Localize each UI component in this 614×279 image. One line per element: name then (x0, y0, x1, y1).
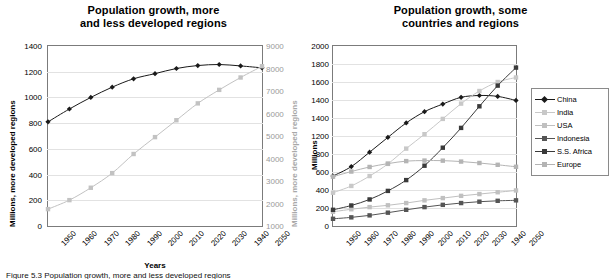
data-point (440, 101, 445, 106)
data-point (441, 146, 445, 150)
x-axis-tick-label: 2010 (454, 229, 473, 248)
x-axis-tick-label: 1990 (145, 229, 164, 248)
data-point (88, 95, 93, 100)
series-line (333, 161, 516, 177)
legend-label: Indonesia (555, 134, 590, 143)
x-axis-tick-label: 2010 (188, 229, 207, 248)
data-point (131, 152, 135, 156)
y-axis-tick-label: 1800 (311, 60, 329, 69)
y-axis-secondary-tick-label: 5000 (266, 132, 284, 141)
y-axis-right-ticks: 2000180016001400140012008006004002000 (303, 45, 329, 227)
data-point (386, 203, 390, 207)
series-layer-right (332, 45, 517, 227)
series-layer-left (47, 45, 263, 227)
y-axis-tick-label: 800 (29, 119, 42, 128)
data-point (386, 161, 390, 165)
legend-item[interactable]: Indonesia (535, 132, 605, 145)
data-point (367, 197, 371, 201)
data-point (422, 158, 426, 162)
x-axis-tick-label: 2030 (230, 229, 249, 248)
y-axis-secondary-tick-label: 7000 (266, 87, 284, 96)
data-point (152, 71, 157, 76)
data-point (386, 189, 390, 193)
y-axis-tick-label: 400 (29, 170, 42, 179)
data-point (496, 83, 500, 87)
data-point (45, 119, 50, 124)
x-axis-tick-label: 1970 (381, 229, 400, 248)
data-point (496, 163, 500, 167)
y-axis-tick-label: 1200 (24, 67, 42, 76)
data-point (404, 159, 408, 163)
data-point (422, 132, 426, 136)
legend-item[interactable]: India (535, 106, 605, 119)
data-point (514, 188, 518, 192)
chart-panel-left: Population growth, more and less develop… (0, 0, 307, 279)
data-point (459, 126, 463, 130)
data-point (404, 201, 408, 205)
data-point (404, 146, 408, 150)
chart-title-right: Population growth, some countries and re… (307, 4, 614, 30)
y-axis-tick-label: 1400 (311, 114, 329, 123)
data-point (238, 75, 242, 79)
data-point (422, 164, 426, 168)
data-point (459, 95, 464, 100)
data-point (349, 215, 353, 219)
data-point (110, 85, 115, 90)
data-point (459, 194, 463, 198)
legend-marker-icon (535, 94, 555, 105)
data-point (422, 198, 426, 202)
data-point (46, 207, 50, 211)
data-point (367, 174, 371, 178)
data-point (331, 217, 335, 221)
data-point (67, 198, 71, 202)
x-axis-tick-label: 1980 (123, 229, 142, 248)
data-point (367, 165, 371, 169)
data-point (477, 93, 482, 98)
legend-item[interactable]: USA (535, 119, 605, 132)
legend-item[interactable]: S.S. Africa (535, 145, 605, 158)
data-point (195, 63, 200, 68)
y-axis-secondary-tick-label: 2000 (266, 199, 284, 208)
data-point (196, 101, 200, 105)
data-point (67, 106, 72, 111)
data-point (404, 208, 408, 212)
x-axis-tick-label: 1950 (344, 229, 363, 248)
y-axis-secondary-tick-label: 4000 (266, 154, 284, 163)
y-axis-tick-label: 0 (38, 222, 42, 231)
y-axis-tick-label: 1400 (24, 42, 42, 51)
data-point (217, 88, 221, 92)
x-axis-ticks-right: 1950196019701980199020002010202020301940… (332, 229, 517, 263)
data-point (153, 135, 157, 139)
data-point (459, 101, 463, 105)
plot-area-right (332, 45, 517, 227)
data-point (477, 89, 481, 93)
legend-marker-icon (535, 120, 555, 131)
legend-label: China (555, 95, 577, 104)
y-axis-title-left-secondary: Millions, more developed regions (290, 100, 299, 227)
legend-item[interactable]: China (535, 93, 605, 106)
x-axis-tick-label: 2020 (209, 229, 228, 248)
plot-area-left (47, 45, 263, 227)
x-axis-tick-label: 1970 (102, 229, 121, 248)
legend-right[interactable]: ChinaIndiaUSAIndonesiaS.S. AfricaEurope (531, 88, 609, 176)
data-point (495, 94, 500, 99)
data-point (349, 169, 353, 173)
series-line (333, 68, 516, 210)
data-point (89, 186, 93, 190)
legend-item[interactable]: Europe (535, 158, 605, 171)
x-axis-tick-label: 1960 (81, 229, 100, 248)
x-axis-tick-label: 1980 (399, 229, 418, 248)
data-point (496, 190, 500, 194)
data-point (331, 191, 335, 195)
data-point (514, 198, 518, 202)
y-axis-tick-label: 1000 (24, 93, 42, 102)
y-axis-secondary-tick-label: 1000 (266, 222, 284, 231)
data-point (422, 109, 427, 114)
legend-marker-icon (535, 133, 555, 144)
data-point (477, 192, 481, 196)
x-axis-tick-label: 1990 (417, 229, 436, 248)
data-point (349, 184, 353, 188)
data-point (367, 213, 371, 217)
x-axis-tick-label: 1950 (59, 229, 78, 248)
y-axis-title-left: Millions, more developed regions (8, 100, 17, 227)
